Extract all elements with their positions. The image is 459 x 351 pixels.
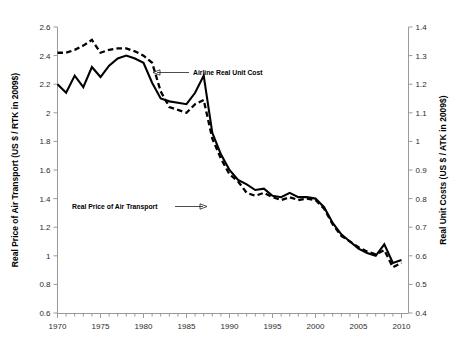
y-axis-left-tick-label: 1 xyxy=(46,252,51,261)
y-axis-left-tick-label: 0.6 xyxy=(39,309,51,318)
annotation-real-price-of-air-transport: Real Price of Air Transport xyxy=(72,203,207,211)
y-axis-left-ticks: 0.60.811.21.41.61.822.22.42.6 xyxy=(39,23,57,318)
y-axis-left-tick-label: 2.6 xyxy=(39,23,51,32)
chart-container: 0.60.811.21.41.61.822.22.42.6 0.40.50.60… xyxy=(0,0,459,351)
y-axis-left-tick-label: 1.4 xyxy=(39,195,51,204)
y-axis-left-tick-label: 2.4 xyxy=(39,52,51,61)
y-axis-right-ticks: 0.40.50.60.70.80.911.11.21.31.4 xyxy=(409,23,428,318)
y-axis-left-tick-label: 2.2 xyxy=(39,80,51,89)
y-axis-right-tick-label: 1.2 xyxy=(416,80,428,89)
x-axis-tick-label: 2005 xyxy=(350,322,368,331)
x-axis-ticks: 197019751980198519901995200020052010 xyxy=(49,313,411,331)
y-axis-right-title: Real Unit Costs (US $ / ATK in 2009$) xyxy=(438,95,448,244)
y-axis-right-tick-label: 1 xyxy=(416,137,421,146)
x-axis-tick-label: 1975 xyxy=(92,322,110,331)
x-axis-tick-label: 1990 xyxy=(221,322,239,331)
y-axis-left-tick-label: 1.2 xyxy=(39,223,51,232)
annotation-label-2: Real Price of Air Transport xyxy=(72,203,158,211)
y-axis-right-tick-label: 1.3 xyxy=(416,52,428,61)
y-axis-right-tick-label: 0.7 xyxy=(416,223,428,232)
series-airline-real-unit-cost xyxy=(58,56,402,263)
y-axis-right-tick-label: 1.4 xyxy=(416,23,428,32)
x-axis-tick-label: 2010 xyxy=(393,322,411,331)
x-axis-tick-label: 1985 xyxy=(178,322,196,331)
y-axis-right-tick-label: 0.4 xyxy=(416,309,428,318)
y-axis-left-tick-label: 1.6 xyxy=(39,166,51,175)
y-axis-right-tick-label: 0.9 xyxy=(416,166,428,175)
y-axis-right-tick-label: 0.5 xyxy=(416,280,428,289)
x-axis-tick-label: 1995 xyxy=(264,322,282,331)
y-axis-right-tick-label: 1.1 xyxy=(416,109,428,118)
x-axis-tick-label: 2000 xyxy=(307,322,325,331)
y-axis-left-tick-label: 2 xyxy=(46,109,51,118)
annotation-airline-real-unit-cost: Airline Real Unit Cost xyxy=(153,69,263,76)
line-chart: 0.60.811.21.41.61.822.22.42.6 0.40.50.60… xyxy=(0,0,459,351)
y-axis-left-title: Real Price of Air Transport (US $ / RTK … xyxy=(10,73,20,267)
y-axis-right-tick-label: 0.6 xyxy=(416,252,428,261)
x-axis-tick-label: 1980 xyxy=(135,322,153,331)
y-axis-left-tick-label: 0.8 xyxy=(39,280,51,289)
x-axis-tick-label: 1970 xyxy=(49,322,67,331)
annotation-label-1: Airline Real Unit Cost xyxy=(193,69,263,76)
y-axis-left-tick-label: 1.8 xyxy=(39,137,51,146)
y-axis-right-tick-label: 0.8 xyxy=(416,195,428,204)
